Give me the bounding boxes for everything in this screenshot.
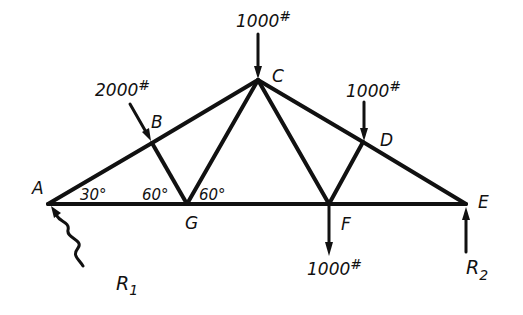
angle-label-G-left-60: 60° bbox=[142, 186, 169, 204]
load-arrow-F bbox=[325, 206, 333, 256]
load-arrow-B bbox=[130, 104, 151, 141]
node-label-E: E bbox=[478, 192, 489, 212]
node-label-F: F bbox=[341, 214, 351, 234]
node-label-G: G bbox=[185, 213, 198, 233]
load-label-B: 2000# bbox=[95, 77, 150, 100]
truss-diagram: A B C D E F G 30° 60° 60° 1000# 2000# 10… bbox=[0, 0, 523, 315]
member-FD bbox=[329, 142, 363, 204]
angle-label-A-30: 30° bbox=[80, 186, 107, 204]
reaction-arrow-R2 bbox=[462, 207, 470, 252]
load-label-F: 1000# bbox=[307, 256, 362, 279]
member-DE bbox=[363, 142, 466, 204]
reaction-label-R1: R1 bbox=[116, 272, 138, 298]
load-arrow-C bbox=[254, 34, 262, 79]
reaction-arrow-R1 bbox=[51, 206, 83, 266]
load-arrow-D bbox=[360, 102, 368, 141]
node-label-B: B bbox=[151, 112, 163, 132]
load-label-C: 1000# bbox=[236, 8, 291, 31]
member-CF bbox=[258, 80, 329, 204]
reaction-label-R2: R2 bbox=[466, 256, 488, 283]
node-label-A: A bbox=[31, 178, 44, 198]
node-label-C: C bbox=[272, 66, 284, 86]
load-label-D: 1000# bbox=[346, 78, 401, 101]
angle-label-G-right-60: 60° bbox=[199, 186, 226, 204]
node-label-D: D bbox=[380, 130, 393, 150]
